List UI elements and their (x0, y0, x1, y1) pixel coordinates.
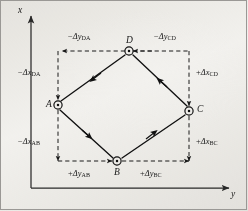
dim-sub-right-upper: CD (209, 71, 218, 77)
dimension-label-top-left: −ΔyDA (68, 33, 90, 41)
station-marker-B[interactable] (113, 157, 121, 165)
dim-sub-bottom-left: AB (81, 172, 90, 178)
course-D-A (61, 55, 125, 101)
station-label-C: C (197, 105, 203, 115)
dimension-label-bottom-right: +ΔyBC (140, 170, 162, 178)
dimension-label-right-lower: +ΔxBC (196, 138, 218, 146)
station-label-A: A (46, 100, 52, 110)
dim-sub-bottom-right: BC (153, 172, 161, 178)
y-axis-label: y (231, 190, 235, 200)
dim-sub-left-upper: DA (31, 71, 40, 77)
dim-sub-top-left: DA (81, 35, 90, 41)
dimension-label-bottom-left: +ΔyAB (68, 170, 90, 178)
traverse-figure: x y A B C D −ΔyDA −ΔyCD −ΔxDA −ΔxAB +ΔxC… (0, 0, 248, 211)
figure-canvas (0, 0, 248, 211)
dimension-label-right-upper: +ΔxCD (196, 69, 218, 77)
station-label-B: B (114, 168, 120, 178)
dimension-lines-group (58, 51, 189, 161)
dim-sub-right-lower: BC (209, 140, 217, 146)
course-direction-arrows (82, 73, 167, 139)
dimension-label-top-right: −ΔyCD (154, 33, 176, 41)
x-axis-label: x (18, 6, 22, 16)
dim-sub-left-lower: AB (31, 140, 40, 146)
station-label-D: D (126, 36, 133, 46)
station-markers-group (54, 47, 193, 165)
dimension-label-left-upper: −ΔxDA (18, 69, 40, 77)
dim-sub-top-right: CD (167, 35, 176, 41)
traverse-courses-group (60, 55, 187, 158)
station-marker-D[interactable] (125, 47, 133, 55)
dimension-label-left-lower: −ΔxAB (18, 138, 40, 146)
station-marker-C[interactable] (185, 107, 193, 115)
station-marker-A[interactable] (54, 101, 62, 109)
arrow-A-B (82, 130, 90, 137)
arrow-D-A (92, 73, 101, 80)
course-B-C (122, 115, 185, 158)
arrow-C-D (159, 80, 167, 87)
